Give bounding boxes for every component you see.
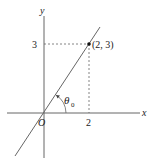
- point-marker: [87, 42, 91, 46]
- angle-label: θ: [64, 94, 70, 106]
- coordinate-diagram: y x O 3 2 (2, 3) θ 0: [0, 0, 152, 166]
- origin-label: O: [38, 117, 45, 128]
- x-tick-label: 2: [86, 117, 91, 128]
- point-label: (2, 3): [92, 39, 114, 51]
- x-axis-label: x: [141, 107, 147, 118]
- angle-subscript: 0: [71, 101, 75, 109]
- y-tick-label: 3: [32, 39, 37, 50]
- y-axis-label: y: [39, 5, 45, 16]
- line-through-origin: [15, 27, 100, 156]
